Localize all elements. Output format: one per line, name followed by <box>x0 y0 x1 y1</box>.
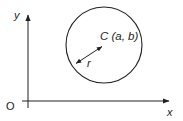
radius-label: r <box>87 57 92 69</box>
x-axis-label: x <box>166 106 173 118</box>
figure-canvas: y x O C (a, b) r <box>0 0 183 121</box>
circle-diagram: y x O C (a, b) r <box>0 0 183 121</box>
origin-label: O <box>6 100 15 112</box>
circle-outline <box>66 7 142 83</box>
y-axis-label: y <box>13 9 21 21</box>
circle-center-label: C (a, b) <box>100 30 139 42</box>
